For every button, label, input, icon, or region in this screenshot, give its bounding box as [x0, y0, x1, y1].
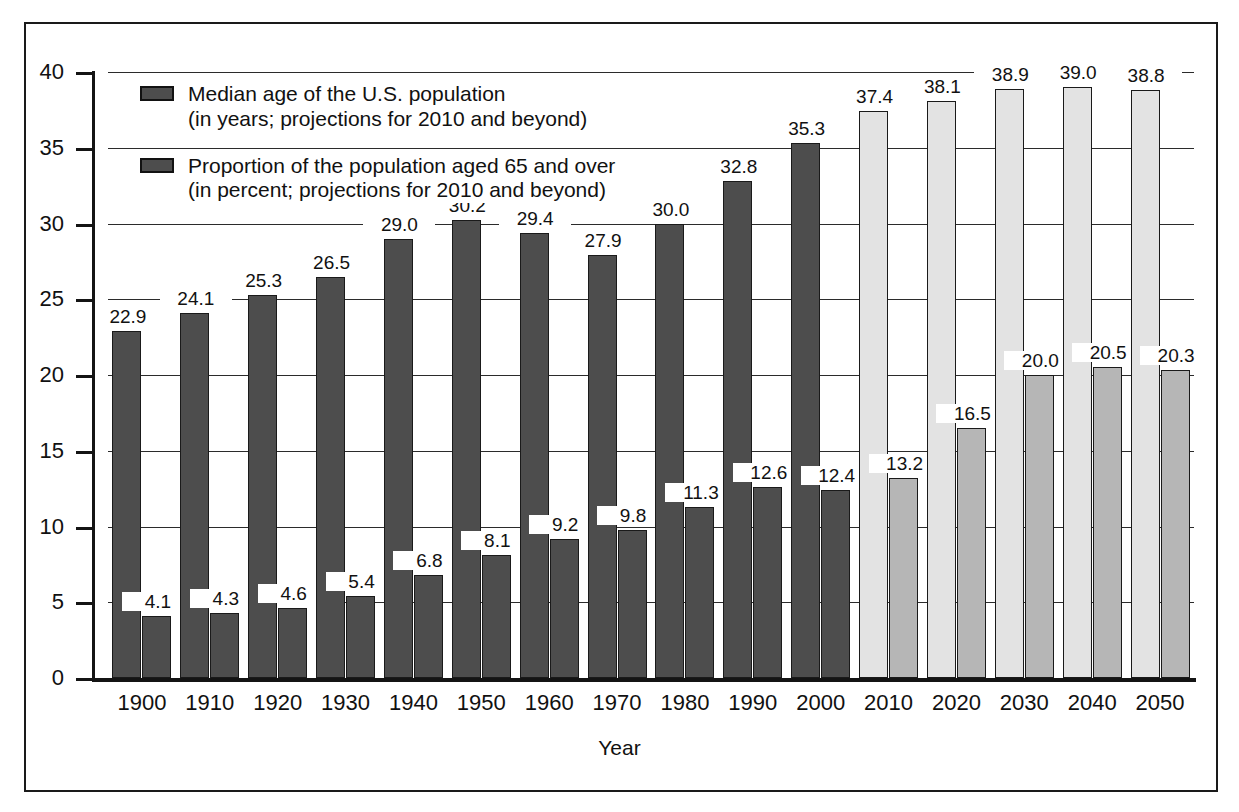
bar-1920-series1	[248, 295, 277, 678]
bar-2000-series2	[821, 490, 850, 678]
bar-value-label: 26.5	[296, 253, 368, 272]
bar-group: 38.920.0	[990, 72, 1058, 678]
y-axis-tick-label: 10	[14, 516, 64, 538]
legend-label-line2: (in percent; projections for 2010 and be…	[188, 178, 615, 203]
bar-value-label: 38.9	[974, 65, 1046, 84]
bar-1930-series2	[346, 596, 375, 678]
bar-1960-series1	[520, 233, 549, 678]
y-axis-tick	[76, 375, 94, 378]
bar-value-label: 32.8	[703, 157, 775, 176]
bar-1940-series2	[414, 575, 443, 678]
x-axis-tick-label-2000: 2000	[783, 692, 859, 714]
bar-group: 38.820.3	[1126, 72, 1194, 678]
bar-1970-series2	[618, 530, 647, 678]
bar-1970-series1	[588, 255, 617, 678]
bar-1950-series1	[452, 220, 481, 678]
bar-2030-series2	[1025, 375, 1054, 678]
figure-canvas: 22.94.124.14.325.34.626.55.429.06.830.28…	[0, 0, 1239, 812]
bar-value-label: 27.9	[567, 231, 639, 250]
legend-entry-2: Proportion of the population aged 65 and…	[140, 154, 610, 204]
y-axis-tick	[76, 72, 94, 75]
bar-2030-series1	[995, 89, 1024, 678]
bar-1900-series2	[142, 616, 171, 678]
bar-1900-series1	[112, 331, 141, 678]
bar-1910-series1	[180, 313, 209, 678]
legend-label-line1: Proportion of the population aged 65 and…	[188, 154, 615, 179]
bar-1980-series2	[685, 507, 714, 678]
bar-value-label: 30.0	[635, 200, 707, 219]
x-axis-tick-label-1940: 1940	[375, 692, 451, 714]
bar-value-label: 20.3	[1140, 346, 1212, 365]
bar-value-label: 38.8	[1110, 66, 1182, 85]
y-axis-tick	[76, 148, 94, 151]
x-axis-tick-label-1920: 1920	[240, 692, 316, 714]
y-axis-tick-label: 30	[14, 213, 64, 235]
bar-value-label: 24.1	[160, 289, 232, 308]
bar-2000-series1	[791, 143, 820, 678]
bar-value-label: 39.0	[1042, 63, 1114, 82]
y-axis-tick	[76, 451, 94, 454]
bar-1910-series2	[210, 613, 239, 678]
bar-2050-series2	[1161, 370, 1190, 678]
y-axis-tick-label: 40	[14, 61, 64, 83]
chart-legend: Median age of the U.S. population(in yea…	[140, 82, 610, 225]
bar-value-label: 37.4	[839, 87, 911, 106]
y-axis-tick	[76, 224, 94, 227]
x-axis-tick-label-1950: 1950	[443, 692, 519, 714]
y-axis-tick-label: 15	[14, 440, 64, 462]
y-axis-tick-label: 0	[14, 667, 64, 689]
legend-entry-1: Median age of the U.S. population(in yea…	[140, 82, 610, 132]
legend-swatch-icon	[140, 86, 174, 101]
bar-2050-series1	[1131, 90, 1160, 678]
bar-value-label: 38.1	[906, 77, 978, 96]
x-axis-tick-label-2030: 2030	[986, 692, 1062, 714]
bar-2020-series1	[927, 101, 956, 678]
x-axis-tick-label-2040: 2040	[1054, 692, 1130, 714]
bar-value-label: 25.3	[228, 271, 300, 290]
x-axis-tick-label-1930: 1930	[308, 692, 384, 714]
bar-2020-series2	[957, 428, 986, 678]
y-axis-tick-label: 20	[14, 364, 64, 386]
x-axis-tick-label-1990: 1990	[715, 692, 791, 714]
bar-group: 32.812.6	[719, 72, 787, 678]
bar-2010-series1	[859, 111, 888, 678]
y-axis-tick-label: 25	[14, 288, 64, 310]
bar-value-label: 35.3	[771, 119, 843, 138]
bar-2040-series2	[1093, 367, 1122, 678]
x-axis-tick-label-1900: 1900	[104, 692, 180, 714]
bar-1950-series2	[482, 555, 511, 678]
bar-1930-series1	[316, 277, 345, 678]
bar-value-label: 22.9	[92, 307, 164, 326]
y-axis-tick-label: 35	[14, 137, 64, 159]
bar-group: 35.312.4	[787, 72, 855, 678]
x-axis-title: Year	[0, 736, 1239, 760]
bar-group: 37.413.2	[855, 72, 923, 678]
legend-swatch-icon	[140, 158, 174, 173]
y-axis-tick	[76, 299, 94, 302]
x-axis-tick-label-2020: 2020	[918, 692, 994, 714]
bar-1990-series2	[753, 487, 782, 678]
legend-label: Median age of the U.S. population(in yea…	[188, 82, 587, 132]
y-axis-tick	[76, 602, 94, 605]
bar-1960-series2	[550, 539, 579, 678]
legend-label-line2: (in years; projections for 2010 and beyo…	[188, 107, 587, 132]
x-axis-tick-label-2050: 2050	[1122, 692, 1198, 714]
bar-2010-series2	[889, 478, 918, 678]
y-axis-tick	[76, 527, 94, 530]
x-axis-spine	[92, 678, 1196, 682]
bar-1920-series2	[278, 608, 307, 678]
bar-group: 39.020.5	[1058, 72, 1126, 678]
bar-1990-series1	[723, 181, 752, 678]
bar-group: 38.116.5	[923, 72, 991, 678]
legend-label-line1: Median age of the U.S. population	[188, 82, 587, 107]
legend-label: Proportion of the population aged 65 and…	[188, 154, 615, 204]
x-axis-tick-label-1960: 1960	[511, 692, 587, 714]
x-axis-tick-label-1910: 1910	[172, 692, 248, 714]
bar-1940-series1	[384, 239, 413, 678]
bar-2040-series1	[1063, 87, 1092, 678]
x-axis-tick-label-1980: 1980	[647, 692, 723, 714]
bar-1980-series1	[655, 224, 684, 679]
x-axis-tick-label-2010: 2010	[851, 692, 927, 714]
y-axis-tick-label: 5	[14, 591, 64, 613]
x-axis-tick-label-1970: 1970	[579, 692, 655, 714]
